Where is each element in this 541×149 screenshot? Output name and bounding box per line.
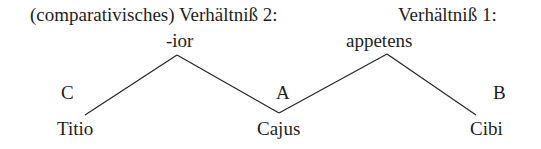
- edge-ior-titio: [85, 55, 177, 115]
- leaf-titio: Titio: [57, 118, 93, 140]
- relation-1-label: Verhältniß 1:: [398, 4, 497, 26]
- edge-appetens-cibi: [387, 54, 476, 115]
- role-c: C: [61, 82, 74, 104]
- leaf-cajus: Cajus: [257, 118, 300, 140]
- edge-appetens-cajus: [279, 54, 387, 113]
- edge-ior-cajus: [177, 55, 279, 113]
- role-a: A: [276, 82, 290, 104]
- node-ior: -ior: [166, 30, 193, 52]
- relation-diagram: (comparativisches) Verhältniß 2: Verhält…: [0, 0, 541, 149]
- relation-2-label: (comparativisches) Verhältniß 2:: [30, 4, 278, 26]
- role-b: B: [493, 82, 506, 104]
- node-appetens: appetens: [346, 30, 412, 52]
- leaf-cibi: Cibi: [470, 118, 503, 140]
